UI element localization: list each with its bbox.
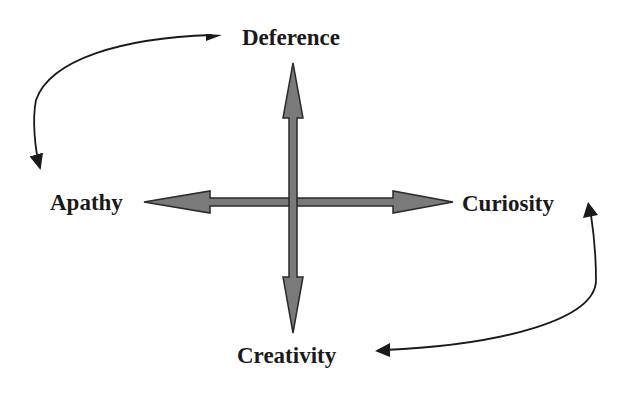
node-creativity: Creativity <box>237 344 336 367</box>
node-deference: Deference <box>242 26 340 49</box>
curved-arrow-deference-apathy <box>34 34 222 168</box>
diagram-canvas: Deference Apathy Curiosity Creativity <box>0 0 622 394</box>
node-apathy: Apathy <box>50 191 123 214</box>
node-curiosity: Curiosity <box>462 192 554 215</box>
horizontal-axis-arrow <box>144 191 453 213</box>
curved-arrow-curiosity-creativity <box>375 202 598 357</box>
